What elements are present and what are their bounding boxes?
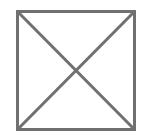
image-placeholder	[0, 0, 143, 135]
crossed-box-icon	[0, 0, 143, 135]
